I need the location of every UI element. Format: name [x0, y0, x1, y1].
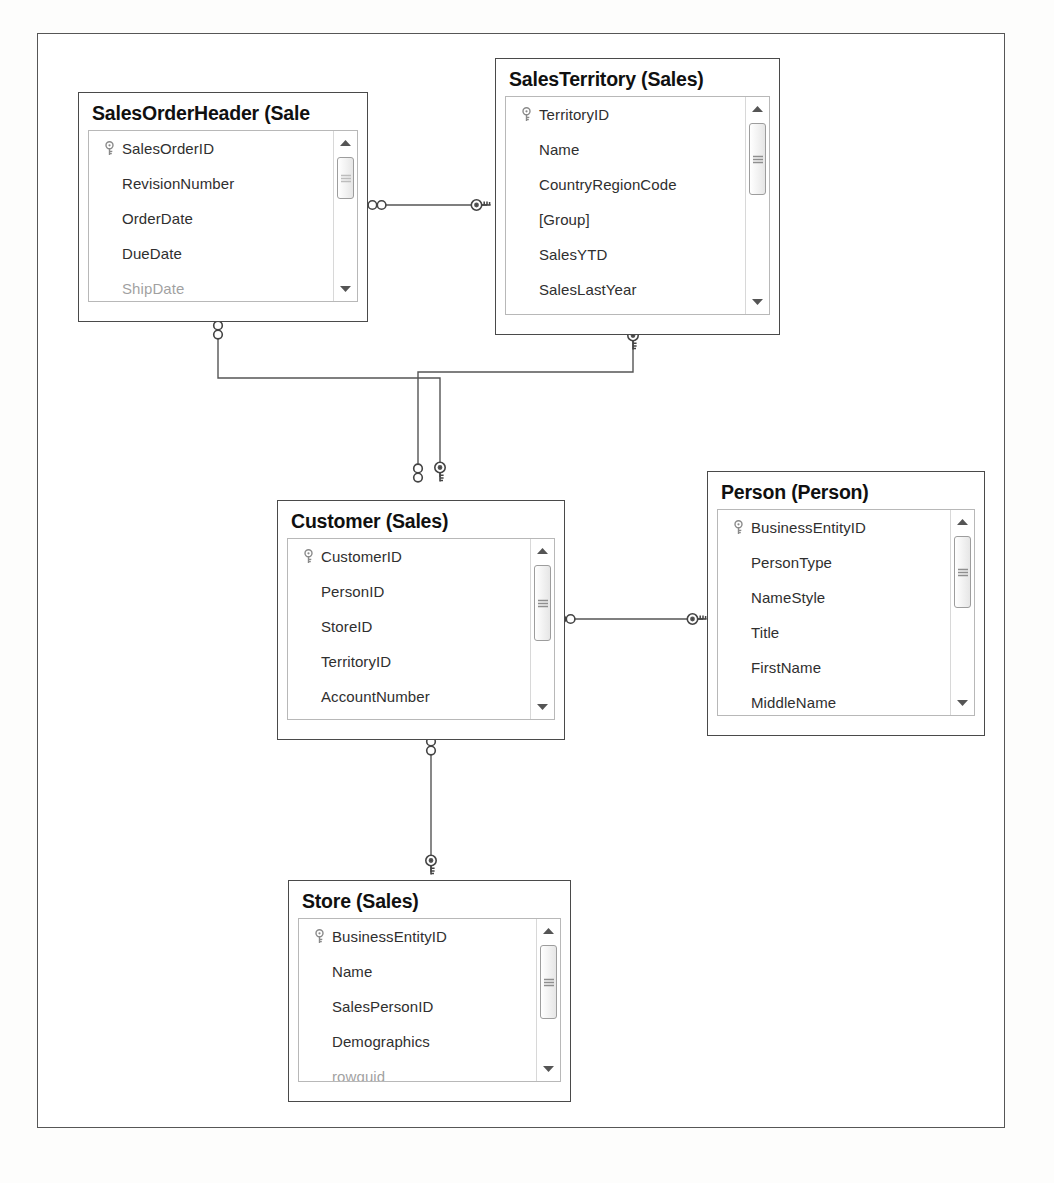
- field-name: StoreID: [321, 618, 373, 635]
- scrollbar-thumb[interactable]: [954, 536, 971, 608]
- field-grid-person[interactable]: BusinessEntityID PersonType NameStyle Ti…: [717, 509, 975, 716]
- field-row[interactable]: Demographics: [299, 1024, 560, 1059]
- primary-key-icon: [295, 549, 321, 564]
- field-name: SalesLastYear: [539, 281, 636, 298]
- field-list-scrollbar[interactable]: [536, 919, 560, 1081]
- field-name: CustomerID: [321, 548, 402, 565]
- scrollbar-thumb[interactable]: [337, 157, 354, 199]
- field-list-scrollbar[interactable]: [950, 510, 974, 715]
- field-grid-store[interactable]: BusinessEntityID Name SalesPersonID Demo…: [298, 918, 561, 1082]
- field-name: SalesOrderID: [122, 140, 214, 157]
- field-row[interactable]: [Group]: [506, 202, 769, 237]
- field-row[interactable]: StoreID: [288, 609, 554, 644]
- table-title-customer: Customer (Sales): [287, 507, 555, 538]
- field-row[interactable]: BusinessEntityID: [718, 510, 974, 545]
- field-name: SalesYTD: [539, 246, 607, 263]
- field-name: [Group]: [539, 211, 590, 228]
- field-row[interactable]: SalesYTD: [506, 237, 769, 272]
- field-name: TerritoryID: [321, 653, 391, 670]
- field-grid-salesterritory[interactable]: TerritoryID Name CountryRegionCode [Grou…: [505, 96, 770, 315]
- field-name: Title: [751, 624, 779, 641]
- table-title-person: Person (Person): [717, 478, 975, 509]
- table-title-salesterritory: SalesTerritory (Sales): [505, 65, 770, 96]
- field-name: Name: [332, 963, 372, 980]
- field-name: FirstName: [751, 659, 821, 676]
- field-row[interactable]: OrderDate: [89, 201, 357, 236]
- field-name: MiddleName: [751, 694, 836, 711]
- table-node-store[interactable]: Store (Sales) BusinessEntityID Name: [288, 880, 571, 1102]
- primary-key-icon: [725, 520, 751, 535]
- field-row[interactable]: CustomerID: [288, 539, 554, 574]
- table-node-salesterritory[interactable]: SalesTerritory (Sales) TerritoryID Name: [495, 58, 780, 335]
- field-row[interactable]: PersonID: [288, 574, 554, 609]
- field-list-scrollbar[interactable]: [333, 131, 357, 301]
- triangle-down-icon[interactable]: [531, 697, 554, 717]
- field-row[interactable]: AccountNumber: [288, 679, 554, 714]
- field-row[interactable]: Name: [299, 954, 560, 989]
- triangle-up-icon[interactable]: [951, 512, 974, 532]
- diagram-canvas: SalesOrderHeader (Sale SalesOrderID Revi…: [0, 0, 1054, 1183]
- table-node-salesorderheader[interactable]: SalesOrderHeader (Sale SalesOrderID Revi…: [78, 92, 368, 322]
- primary-key-icon: [306, 929, 332, 944]
- field-name: ShipDate: [122, 280, 185, 297]
- field-row[interactable]: SalesOrderID: [89, 131, 357, 166]
- field-name: SalesPersonID: [332, 998, 433, 1015]
- field-row[interactable]: ShipDate: [89, 271, 357, 302]
- field-row[interactable]: BusinessEntityID: [299, 919, 560, 954]
- field-name: PersonType: [751, 554, 832, 571]
- triangle-up-icon[interactable]: [334, 133, 357, 153]
- field-list-scrollbar[interactable]: [745, 97, 769, 314]
- field-row[interactable]: MiddleName: [718, 685, 974, 716]
- field-row[interactable]: TerritoryID: [288, 644, 554, 679]
- primary-key-icon: [96, 141, 122, 156]
- field-row[interactable]: rowguid: [299, 1059, 560, 1082]
- field-name: PersonID: [321, 583, 384, 600]
- field-row[interactable]: SalesLastYear: [506, 272, 769, 307]
- field-name: RevisionNumber: [122, 175, 234, 192]
- field-grid-customer[interactable]: CustomerID PersonID StoreID TerritoryID …: [287, 538, 555, 720]
- field-name: AccountNumber: [321, 688, 430, 705]
- scrollbar-thumb[interactable]: [749, 123, 766, 195]
- triangle-down-icon[interactable]: [537, 1059, 560, 1079]
- scrollbar-thumb[interactable]: [534, 565, 551, 641]
- triangle-down-icon[interactable]: [334, 279, 357, 299]
- field-row[interactable]: SalesPersonID: [299, 989, 560, 1024]
- triangle-up-icon[interactable]: [531, 541, 554, 561]
- triangle-up-icon[interactable]: [537, 921, 560, 941]
- field-row[interactable]: Title: [718, 615, 974, 650]
- triangle-down-icon[interactable]: [951, 693, 974, 713]
- field-name: Name: [539, 141, 579, 158]
- field-name: CountryRegionCode: [539, 176, 677, 193]
- field-name: BusinessEntityID: [332, 928, 447, 945]
- field-name: rowguid: [332, 1068, 385, 1082]
- field-row[interactable]: RevisionNumber: [89, 166, 357, 201]
- field-row[interactable]: TerritoryID: [506, 97, 769, 132]
- field-name: OrderDate: [122, 210, 193, 227]
- scrollbar-thumb[interactable]: [540, 945, 557, 1019]
- primary-key-icon: [513, 107, 539, 122]
- field-grid-salesorderheader[interactable]: SalesOrderID RevisionNumber OrderDate Du…: [88, 130, 358, 302]
- field-list-scrollbar[interactable]: [530, 539, 554, 719]
- field-name: DueDate: [122, 245, 182, 262]
- field-row[interactable]: PersonType: [718, 545, 974, 580]
- field-row[interactable]: DueDate: [89, 236, 357, 271]
- triangle-down-icon[interactable]: [746, 292, 769, 312]
- field-name: BusinessEntityID: [751, 519, 866, 536]
- field-name: TerritoryID: [539, 106, 609, 123]
- table-title-salesorderheader: SalesOrderHeader (Sale: [88, 99, 358, 130]
- field-row[interactable]: CountryRegionCode: [506, 167, 769, 202]
- table-node-person[interactable]: Person (Person) BusinessEntityID PersonT…: [707, 471, 985, 736]
- field-row[interactable]: Name: [506, 132, 769, 167]
- field-row[interactable]: NameStyle: [718, 580, 974, 615]
- table-title-store: Store (Sales): [298, 887, 561, 918]
- triangle-up-icon[interactable]: [746, 99, 769, 119]
- field-row[interactable]: FirstName: [718, 650, 974, 685]
- table-node-customer[interactable]: Customer (Sales) CustomerID PersonID: [277, 500, 565, 740]
- field-name: NameStyle: [751, 589, 825, 606]
- field-name: Demographics: [332, 1033, 430, 1050]
